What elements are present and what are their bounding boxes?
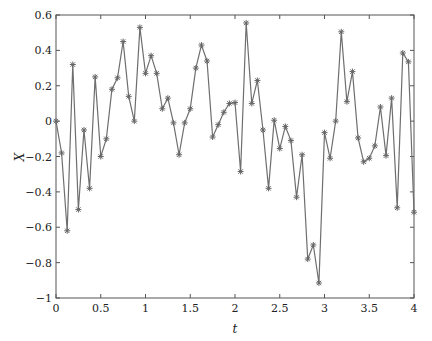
x-tick-label: 3.5 — [361, 302, 379, 315]
star-marker-icon — [221, 109, 227, 115]
star-marker-icon — [327, 155, 333, 161]
star-marker-icon — [215, 122, 221, 128]
star-marker-icon — [310, 242, 316, 248]
data-series — [53, 20, 417, 286]
star-marker-icon — [81, 127, 87, 133]
star-marker-icon — [266, 185, 272, 191]
star-marker-icon — [355, 135, 361, 141]
x-tick-label: 0 — [53, 302, 60, 315]
star-marker-icon — [226, 100, 232, 106]
star-marker-icon — [198, 42, 204, 48]
star-marker-icon — [294, 194, 300, 200]
star-marker-icon — [299, 152, 305, 158]
star-marker-icon — [53, 118, 59, 124]
star-marker-icon — [103, 136, 109, 142]
star-marker-icon — [137, 24, 143, 30]
star-marker-icon — [120, 39, 126, 45]
star-marker-icon — [92, 74, 98, 80]
star-marker-icon — [70, 62, 76, 68]
star-marker-icon — [75, 207, 81, 213]
y-tick-label: 0 — [45, 115, 52, 128]
x-tick-label: 1.5 — [182, 302, 200, 315]
star-marker-icon — [98, 154, 104, 160]
y-tick-label: 0.4 — [35, 44, 53, 57]
line-chart: 00.511.522.533.540.60.40.20−0.2−0.4−0.6−… — [0, 0, 432, 341]
star-marker-icon — [405, 59, 411, 65]
star-marker-icon — [187, 106, 193, 112]
star-marker-icon — [238, 169, 244, 175]
star-marker-icon — [322, 130, 328, 136]
star-marker-icon — [143, 70, 149, 76]
y-tick-label: −0.2 — [25, 151, 52, 164]
star-marker-icon — [182, 120, 188, 126]
x-tick-label: 2 — [232, 302, 239, 315]
star-marker-icon — [210, 134, 216, 140]
star-marker-icon — [389, 95, 395, 101]
star-marker-icon — [316, 280, 322, 286]
x-tick-label: 2.5 — [271, 302, 289, 315]
star-marker-icon — [383, 153, 389, 159]
star-marker-icon — [277, 146, 283, 152]
x-tick-label: 3 — [321, 302, 328, 315]
star-marker-icon — [159, 106, 165, 112]
y-tick-label: 0.6 — [35, 9, 53, 22]
y-tick-label: −0.4 — [25, 186, 52, 199]
star-marker-icon — [154, 70, 160, 76]
star-marker-icon — [361, 159, 367, 165]
star-marker-icon — [394, 205, 400, 211]
star-marker-icon — [170, 120, 176, 126]
star-marker-icon — [243, 20, 249, 26]
star-marker-icon — [349, 69, 355, 75]
star-marker-icon — [204, 58, 210, 64]
star-marker-icon — [305, 256, 311, 262]
star-marker-icon — [115, 75, 121, 81]
star-marker-icon — [109, 86, 115, 92]
star-marker-icon — [400, 50, 406, 56]
x-axis-label: t — [233, 322, 238, 336]
star-marker-icon — [411, 209, 417, 215]
star-marker-icon — [333, 118, 339, 124]
y-tick-label: −0.8 — [25, 257, 52, 270]
star-marker-icon — [176, 152, 182, 158]
star-marker-icon — [148, 53, 154, 59]
star-marker-icon — [165, 95, 171, 101]
star-marker-icon — [232, 100, 238, 106]
star-marker-icon — [249, 100, 255, 106]
star-marker-icon — [377, 104, 383, 110]
star-marker-icon — [282, 123, 288, 129]
series-line — [56, 23, 414, 283]
x-tick-label: 4 — [411, 302, 418, 315]
star-marker-icon — [87, 185, 93, 191]
x-tick-label: 1 — [142, 302, 149, 315]
star-marker-icon — [338, 29, 344, 35]
star-marker-icon — [271, 117, 277, 123]
y-axis-label: X — [13, 152, 27, 162]
star-marker-icon — [288, 138, 294, 144]
plot-border — [56, 15, 414, 298]
star-marker-icon — [260, 127, 266, 133]
y-tick-label: −0.6 — [25, 221, 52, 234]
star-marker-icon — [366, 155, 372, 161]
star-marker-icon — [193, 65, 199, 71]
star-marker-icon — [64, 228, 70, 234]
star-marker-icon — [131, 118, 137, 124]
star-marker-icon — [126, 93, 132, 99]
star-marker-icon — [344, 99, 350, 105]
x-tick-label: 0.5 — [92, 302, 110, 315]
star-marker-icon — [254, 77, 260, 83]
axis-ticks: 00.511.522.533.540.60.40.20−0.2−0.4−0.6−… — [25, 9, 417, 315]
star-marker-icon — [372, 143, 378, 149]
y-tick-label: 0.2 — [35, 80, 53, 93]
y-tick-label: −1 — [36, 292, 52, 305]
star-marker-icon — [59, 150, 65, 156]
plot-frame — [56, 15, 414, 298]
